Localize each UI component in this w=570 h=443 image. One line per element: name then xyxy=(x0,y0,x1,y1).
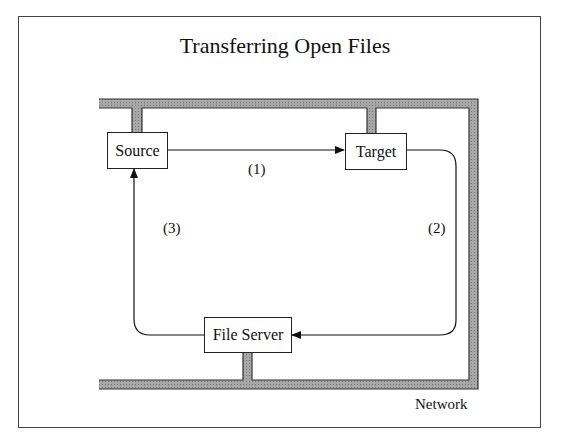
file-server-node: File Server xyxy=(204,317,292,353)
network-label: Network xyxy=(415,396,468,413)
edge-fileserver-to-source xyxy=(134,169,204,335)
edge-target-to-fileserver xyxy=(292,150,456,335)
diagram-title: Transferring Open Files xyxy=(0,33,570,59)
outer-frame xyxy=(19,17,541,428)
target-node: Target xyxy=(345,133,407,170)
edge-label-3: (3) xyxy=(163,220,181,237)
edge-label-1: (1) xyxy=(248,161,266,178)
diagram-canvas xyxy=(0,0,570,443)
source-node: Source xyxy=(107,132,168,169)
edge-label-2: (2) xyxy=(428,220,446,237)
